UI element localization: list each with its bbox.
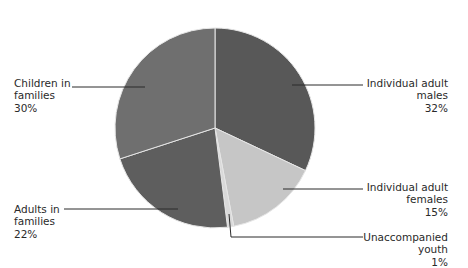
label-unaccompanied-youth: Unaccompanied youth 1%	[363, 231, 448, 268]
pie-slices	[115, 28, 315, 228]
label-percent: 15%	[367, 206, 448, 218]
label-text: Children in	[14, 77, 71, 89]
label-text: Individual adult	[367, 181, 448, 193]
label-text: Individual adult	[367, 77, 448, 89]
label-percent: 22%	[14, 228, 60, 240]
label-percent: 32%	[367, 102, 448, 114]
label-individual-adult-females: Individual adult females 15%	[367, 181, 448, 218]
label-text: youth	[363, 243, 448, 255]
label-percent: 1%	[363, 256, 448, 268]
label-text: females	[367, 193, 448, 205]
label-text: families	[14, 215, 60, 227]
label-individual-adult-males: Individual adult males 32%	[367, 77, 448, 114]
label-text: families	[14, 89, 71, 101]
label-adults-in-families: Adults in families 22%	[14, 203, 60, 240]
label-text: Unaccompanied	[363, 231, 448, 243]
label-children-in-families: Children in families 30%	[14, 77, 71, 114]
label-text: males	[367, 89, 448, 101]
label-text: Adults in	[14, 203, 60, 215]
pie-chart	[0, 0, 468, 268]
label-percent: 30%	[14, 102, 71, 114]
